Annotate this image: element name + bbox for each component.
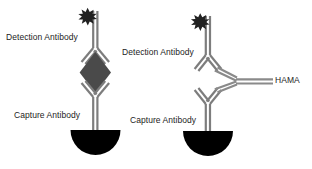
label-detection-antibody-left: Detection Antibody	[6, 33, 78, 42]
hama-bridge-antibody	[215, 68, 273, 93]
solid-phase-well-right	[183, 131, 233, 156]
detection-arm-right-right-a	[210, 55, 221, 69]
label-capture-antibody-right: Capture Antibody	[130, 116, 196, 125]
solid-phase-well-left	[71, 130, 121, 155]
panel-hama-interference	[183, 13, 273, 156]
detection-arm-right-left-a	[195, 55, 206, 69]
diagram-canvas: Detection Antibody Capture Antibody Dete…	[0, 0, 312, 169]
label-capture-antibody-left: Capture Antibody	[14, 111, 80, 120]
label-hama: HAMA	[275, 76, 300, 85]
capture-arm-right-left-a	[195, 90, 206, 104]
capture-antibody-right	[195, 88, 222, 133]
panel-normal-sandwich	[71, 8, 121, 155]
label-detection-antibody-right: Detection Antibody	[122, 48, 194, 57]
capture-arm-right-right-b	[207, 88, 218, 102]
immunoassay-diagram	[0, 0, 312, 169]
detection-arm-right-right-b	[207, 58, 218, 72]
